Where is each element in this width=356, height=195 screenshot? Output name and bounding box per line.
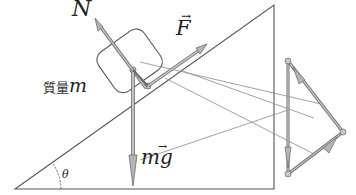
gravity-label: mg [141, 147, 173, 167]
mass-label: 質量m [43, 76, 87, 96]
gravity-arrow [129, 72, 137, 186]
mass-prefix-label: 質量 [43, 80, 69, 95]
angle-arc [53, 163, 62, 189]
mass-symbol-label: m [69, 74, 87, 96]
normal-force-arrow [95, 18, 146, 88]
mass-block [93, 25, 166, 97]
vector-arrow-mark: → [158, 141, 167, 152]
force-triangle [285, 58, 346, 177]
normal-force-label: N [72, 0, 91, 20]
angle-label: θ [62, 169, 69, 180]
com-link [133, 70, 148, 86]
applied-force-label: F [176, 18, 191, 39]
